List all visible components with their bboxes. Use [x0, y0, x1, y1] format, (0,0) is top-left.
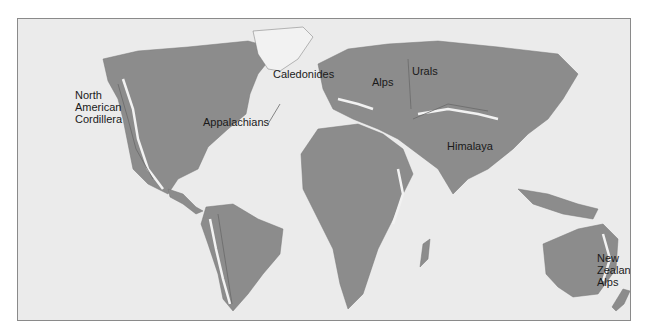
map-landmasses [18, 19, 631, 321]
label-appalachians: Appalachians [203, 116, 269, 128]
label-caledonides: Caledonides [273, 68, 334, 80]
madagascar [420, 239, 430, 267]
label-new-zealand-alps: New Zealand Alps [597, 252, 631, 288]
label-alps: Alps [372, 76, 393, 88]
new-zealand [612, 289, 630, 311]
label-north-american-cordillera: North American Cordillera [75, 89, 122, 125]
label-urals: Urals [412, 65, 438, 77]
central-america [168, 189, 203, 214]
world-map: North American Cordillera Appalachians C… [17, 18, 631, 321]
label-himalaya: Himalaya [447, 140, 493, 152]
south-america [201, 204, 283, 311]
se-asia [518, 189, 598, 219]
